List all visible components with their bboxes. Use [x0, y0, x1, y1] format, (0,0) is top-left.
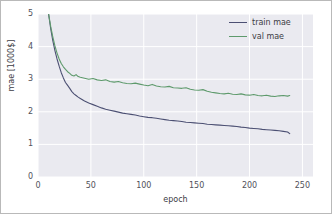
legend-item-val-mae: val mae — [229, 32, 291, 41]
y-axis-label: mae [1000$] — [7, 31, 16, 101]
chart-legend: train mae val mae — [229, 18, 291, 41]
x-tick-label: 150 — [183, 182, 211, 190]
x-tick-label: 250 — [288, 182, 316, 190]
legend-swatch-val-mae — [229, 36, 247, 37]
legend-label-val-mae: val mae — [252, 32, 284, 41]
x-tick-label: 0 — [24, 182, 52, 190]
y-tick-label: 5 — [19, 10, 33, 18]
x-tick-label: 200 — [236, 182, 264, 190]
y-tick-label: 2 — [19, 108, 33, 116]
x-axis-label: epoch — [38, 195, 313, 204]
chart-figure: 012345 050100150200250 epoch mae [1000$]… — [0, 0, 332, 214]
y-tick-label: 4 — [19, 43, 33, 51]
legend-swatch-train-mae — [229, 22, 247, 23]
x-tick-label: 50 — [77, 182, 105, 190]
y-tick-label: 1 — [19, 140, 33, 148]
y-tick-label: 3 — [19, 75, 33, 83]
legend-item-train-mae: train mae — [229, 18, 291, 27]
x-tick-label: 100 — [130, 182, 158, 190]
legend-label-train-mae: train mae — [252, 18, 291, 27]
y-tick-label: 0 — [19, 173, 33, 181]
